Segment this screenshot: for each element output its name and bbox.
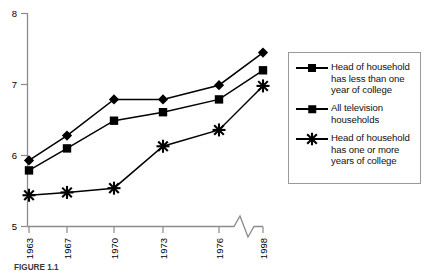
square-marker	[110, 117, 118, 125]
y-tick-label-7: 7	[12, 79, 17, 90]
legend-label-1: All television households	[331, 102, 383, 125]
legend-entry-1[interactable]: All television households	[295, 102, 383, 125]
asterisk-marker	[23, 189, 36, 202]
x-tick-label-1963: 1963	[24, 238, 35, 259]
figure-caption-label: FIGURE 1.1	[14, 263, 59, 271]
x-tick-label-1998: 1998	[258, 238, 269, 259]
square-marker	[215, 95, 223, 103]
asterisk-marker	[213, 123, 226, 136]
square-marker	[25, 166, 33, 174]
legend-entry-0[interactable]: Head of household has less than one year…	[295, 61, 410, 96]
series-diamond	[24, 47, 268, 165]
diamond-marker	[295, 62, 329, 74]
x-tick-label-1973: 1973	[158, 238, 169, 259]
series-line	[29, 86, 263, 195]
asterisk-marker	[157, 140, 170, 153]
figure-caption: FIGURE 1.1	[14, 263, 434, 271]
x-tick-label-1970: 1970	[109, 238, 120, 259]
legend-label-0: Head of household has less than one year…	[331, 61, 410, 96]
y-tick-label-8: 8	[12, 8, 17, 19]
square-marker	[159, 108, 167, 116]
asterisk-marker	[295, 133, 329, 145]
square-marker	[259, 66, 267, 74]
square-marker	[63, 144, 71, 152]
y-tick-label-6: 6	[12, 150, 17, 161]
asterisk-marker	[108, 182, 121, 195]
legend-label-2: Head of household has one or more years …	[331, 132, 410, 167]
x-axis: 1963 1967 1970 1973 1976 1998	[24, 216, 269, 259]
series-layer	[23, 47, 270, 201]
asterisk-marker	[257, 79, 270, 92]
series-square	[25, 66, 267, 175]
diamond-marker	[24, 155, 34, 165]
axis-break-zigzag	[228, 216, 263, 237]
asterisk-marker	[61, 186, 74, 199]
legend-entry-2[interactable]: Head of household has one or more years …	[295, 132, 410, 167]
figure-container: 8 7 6 5 1963 1967 1970 1973 1976 1998	[0, 0, 436, 271]
y-tick-label-5: 5	[12, 221, 17, 232]
x-tick-label-1967: 1967	[62, 238, 73, 259]
x-tick-label-1976: 1976	[214, 238, 225, 259]
legend: Head of household has less than one year…	[288, 52, 421, 184]
square-marker	[295, 103, 329, 115]
diamond-marker	[158, 94, 168, 104]
